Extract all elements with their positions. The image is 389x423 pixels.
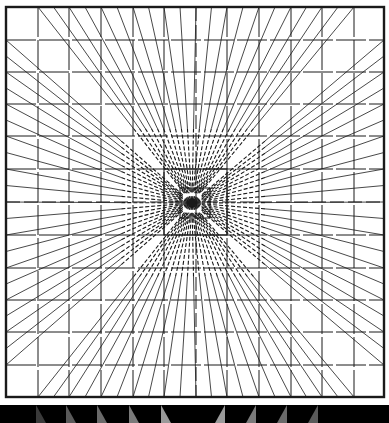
band-background (0, 405, 389, 423)
test-pattern-canvas (0, 0, 389, 423)
bottom-band (0, 405, 389, 423)
hub-center (189, 200, 196, 207)
